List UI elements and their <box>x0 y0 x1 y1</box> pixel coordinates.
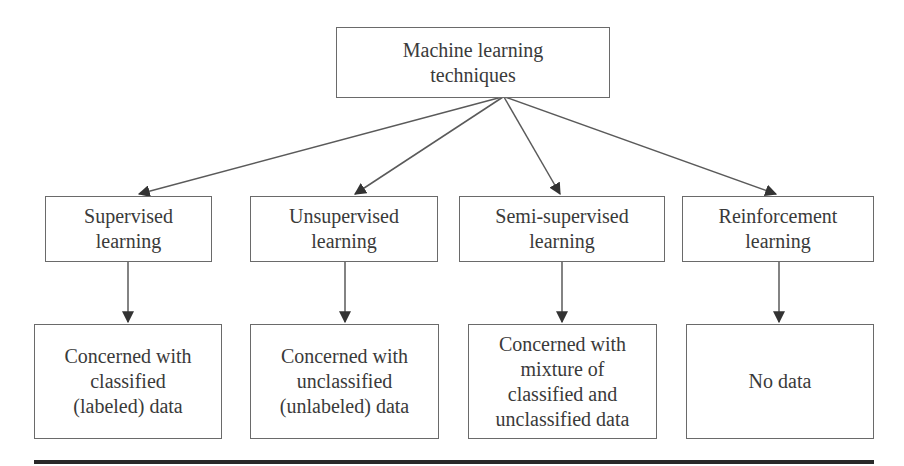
root-node: Machine learning techniques <box>336 27 610 98</box>
description-node-semi-supervised: Concerned with mixture of classified and… <box>468 324 657 439</box>
category-node-supervised: Supervised learning <box>45 196 212 262</box>
root-label: Machine learning techniques <box>403 38 544 88</box>
description-text: No data <box>749 369 812 394</box>
category-node-semi-supervised: Semi-supervised learning <box>459 196 665 262</box>
description-node-supervised: Concerned with classified (labeled) data <box>34 324 222 439</box>
arrow-root-to-unsupervised <box>355 97 503 194</box>
description-text: Concerned with classified (labeled) data <box>64 344 191 419</box>
description-text: Concerned with unclassified (unlabeled) … <box>280 344 409 419</box>
description-node-unsupervised: Concerned with unclassified (unlabeled) … <box>250 324 439 439</box>
bottom-rule-divider <box>34 460 874 464</box>
category-label: Unsupervised learning <box>289 204 399 254</box>
arrow-root-to-supervised <box>139 97 502 194</box>
description-text: Concerned with mixture of classified and… <box>496 332 630 432</box>
arrow-root-to-semi-supervised <box>504 97 560 194</box>
arrow-root-to-reinforcement <box>505 97 776 194</box>
category-label: Semi-supervised learning <box>495 204 628 254</box>
description-node-reinforcement: No data <box>686 324 874 439</box>
category-node-unsupervised: Unsupervised learning <box>250 196 438 262</box>
category-label: Supervised learning <box>84 204 173 254</box>
category-node-reinforcement: Reinforcement learning <box>682 196 874 262</box>
category-label: Reinforcement learning <box>719 204 838 254</box>
